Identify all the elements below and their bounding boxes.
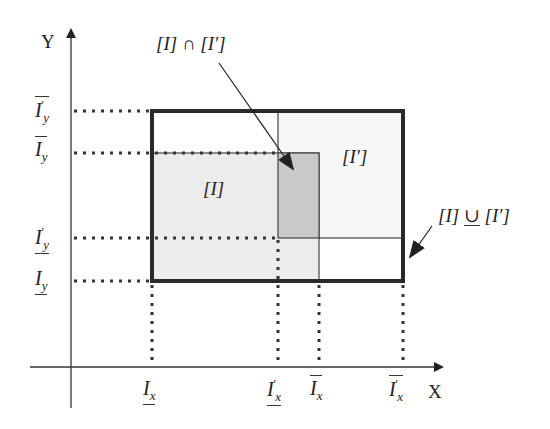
x-tick-lower-i-prime-x: I′x [267, 378, 281, 406]
regions [152, 111, 403, 281]
intersection-region [278, 153, 319, 238]
box-i-prime-label: [I′] [342, 147, 367, 166]
diagram-canvas: Y X I′y Iy I′y Iy Ix I′x Ix I′x [I] [I′]… [0, 0, 550, 429]
y-tick-lower-i-prime-y: I′y [35, 226, 49, 254]
x-tick-upper-i-x: Ix [310, 375, 322, 402]
x-axis-label: X [428, 382, 442, 401]
intersection-label: [I] ∩ [I′] [156, 34, 226, 53]
hull-label: [I] ∪ [I′] [438, 206, 510, 226]
y-tick-upper-i-prime-y: I′y [35, 96, 49, 124]
x-tick-lower-i-x: Ix [143, 378, 155, 405]
hull-callout-arrow [410, 226, 432, 257]
y-tick-lower-i-y: Iy [35, 268, 47, 295]
box-i-label: [I] [203, 179, 224, 198]
y-tick-upper-i-y: Iy [35, 136, 47, 163]
y-axis-label: Y [41, 32, 55, 51]
x-tick-upper-i-prime-x: I′x [389, 375, 403, 403]
